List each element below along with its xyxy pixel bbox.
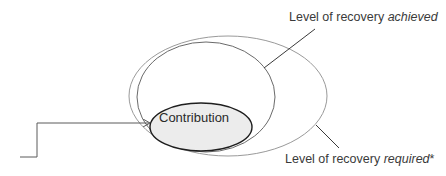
achieved-label: Level of recovery achieved [289, 10, 439, 24]
required-label-emphasis: required [384, 152, 431, 166]
achieved-label-emphasis: achieved [388, 10, 439, 24]
required-label-asterisk: * [430, 152, 435, 166]
required-label: Level of recovery required* [285, 152, 435, 166]
contribution-arrow [20, 123, 150, 157]
recovery-diagram: Contribution Level of recovery achieved … [0, 0, 446, 176]
required-leader-line [316, 125, 339, 148]
achieved-leader-line [264, 29, 315, 68]
achieved-label-prefix: Level of recovery [289, 10, 388, 24]
contribution-label: Contribution [159, 110, 229, 125]
required-label-prefix: Level of recovery [285, 152, 384, 166]
